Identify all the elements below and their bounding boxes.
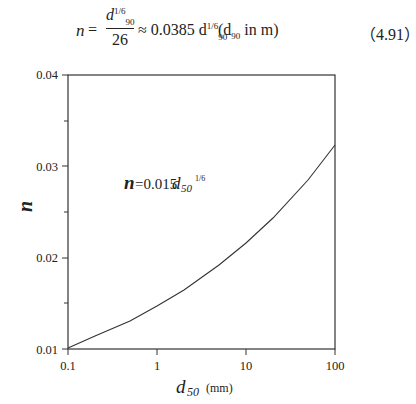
x-axis-label: d 50 (mm) (176, 376, 233, 399)
x-ticks (68, 349, 335, 355)
x-tick-label: 100 (326, 359, 345, 373)
svg-text:50: 50 (181, 182, 193, 194)
svg-text:d: d (172, 174, 181, 193)
x-tick-label: 0.1 (60, 359, 76, 373)
svg-text:d: d (176, 376, 186, 397)
y-tick-label: 0.03 (36, 160, 58, 174)
y-tick-label: 0.02 (36, 251, 58, 265)
svg-text:=0.015: =0.015 (135, 176, 177, 192)
svg-text:50: 50 (187, 385, 199, 399)
plot-frame (68, 75, 335, 349)
x-tick-label: 10 (240, 359, 253, 373)
chart: 0.01 0.02 0.03 0.04 0.1 1 10 100 n d 50 … (0, 0, 416, 404)
x-tick-label: 1 (154, 359, 160, 373)
svg-text:(mm): (mm) (206, 381, 233, 395)
y-tick-label: 0.01 (36, 343, 58, 357)
svg-text:1/6: 1/6 (195, 174, 205, 183)
y-axis-label: n (14, 201, 36, 212)
curve-annotation: n =0.015 d 50 1/6 (124, 172, 205, 194)
y-tick-label: 0.04 (36, 68, 59, 82)
svg-text:n: n (124, 172, 135, 193)
y-ticks (62, 75, 68, 349)
